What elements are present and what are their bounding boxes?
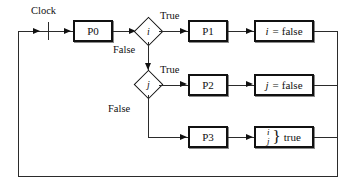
- process-block-p3-label: P3: [202, 131, 214, 143]
- process-block-p3: P3: [188, 126, 228, 148]
- action-box-i-false: i = false: [254, 20, 314, 42]
- action-i-value: false: [282, 25, 303, 37]
- action-ij-to-bus-wire: [314, 137, 338, 138]
- action-j-to-bus-wire: [314, 85, 338, 86]
- process-block-p1: P1: [188, 20, 228, 42]
- decision-j-false-arrow: [180, 134, 187, 140]
- action-ij-variable-stack: i j: [267, 128, 270, 146]
- action-box-ij-true: i j } true: [254, 126, 314, 148]
- process-block-p2: P2: [188, 74, 228, 96]
- clock-arrow-left: [33, 28, 40, 34]
- decision-j-false-label: False: [108, 103, 130, 114]
- action-box-j-false: j = false: [254, 74, 314, 96]
- process-block-p1-label: P1: [202, 25, 214, 37]
- action-ij-value: true: [284, 131, 301, 143]
- decision-j-true-label: True: [160, 64, 179, 75]
- action-ij-brace: }: [271, 131, 283, 143]
- action-i-to-bus-wire: [314, 31, 338, 32]
- clock-label: Clock: [31, 5, 56, 16]
- decision-i-label: i: [138, 21, 159, 42]
- p2-to-action-j-arrow: [246, 81, 253, 87]
- clock-tick-marker: [48, 22, 49, 40]
- flowchart-diagram: Clock P0 i True P1 i = false False j Tru…: [0, 0, 355, 191]
- feedback-bottom-wire: [18, 176, 338, 177]
- p1-to-action-i-arrow: [246, 28, 253, 34]
- decision-i-true-arrow: [180, 28, 187, 34]
- decision-j-false-wire: [148, 95, 149, 137]
- decision-i-false-label: False: [113, 44, 135, 55]
- process-block-p2-label: P2: [202, 79, 214, 91]
- action-ij-variable-bottom: j: [267, 137, 270, 146]
- decision-i-true-label: True: [160, 10, 179, 21]
- process-block-p0: P0: [73, 20, 113, 42]
- clock-arrow-right: [64, 28, 71, 34]
- action-j-value: false: [282, 79, 303, 91]
- action-i-operator: =: [270, 25, 282, 37]
- action-j-operator: =: [270, 79, 282, 91]
- process-block-p0-label: P0: [87, 25, 99, 37]
- decision-j-label: j: [138, 74, 159, 95]
- feedback-left-wire: [18, 31, 19, 176]
- feedback-right-bus: [337, 31, 338, 176]
- decision-j-true-arrow: [180, 81, 187, 87]
- p3-to-action-ij-arrow: [246, 134, 253, 140]
